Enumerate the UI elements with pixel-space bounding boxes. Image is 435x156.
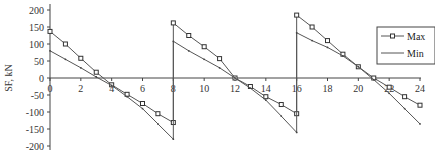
y-tick-label: 0 xyxy=(39,73,44,84)
x-tick-label: 2 xyxy=(78,83,83,94)
legend-max: Max xyxy=(407,31,425,42)
legend-min: Min xyxy=(407,48,424,59)
x-tick-label: 6 xyxy=(140,83,145,94)
y-tick-label: -200 xyxy=(26,141,44,152)
y-axis-label: SF, kN xyxy=(3,64,14,92)
max-marker-icon xyxy=(391,34,395,38)
y-tick-label: 150 xyxy=(29,22,44,33)
y-tick-label: -100 xyxy=(26,107,44,118)
y-tick-label: 200 xyxy=(29,5,44,16)
x-tick-label: 24 xyxy=(415,83,425,94)
legend: Max Min xyxy=(377,27,435,64)
x-tick-label: 18 xyxy=(323,83,333,94)
y-tick-label: 100 xyxy=(29,39,44,50)
x-tick-label: 20 xyxy=(353,83,363,94)
y-axis-ticks: 200150100500-50-100-150-200 xyxy=(26,5,50,152)
y-tick-label: 50 xyxy=(34,56,44,67)
x-tick-label: 12 xyxy=(230,83,240,94)
shear-force-chart: 200150100500-50-100-150-200 024681012141… xyxy=(0,0,435,156)
x-tick-label: 10 xyxy=(199,83,209,94)
x-tick-label: 14 xyxy=(261,83,271,94)
y-tick-label: -50 xyxy=(31,90,44,101)
y-tick-label: -150 xyxy=(26,124,44,135)
series-lines xyxy=(48,13,422,140)
series-max xyxy=(50,15,420,122)
